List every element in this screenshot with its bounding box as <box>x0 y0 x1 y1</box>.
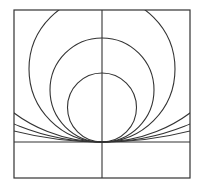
tangent-circle <box>0 0 201 142</box>
tangent-circle <box>0 0 201 142</box>
tangent-circles <box>0 0 201 142</box>
tangent-circles-diagram <box>0 0 201 194</box>
tangent-circle <box>0 0 201 142</box>
